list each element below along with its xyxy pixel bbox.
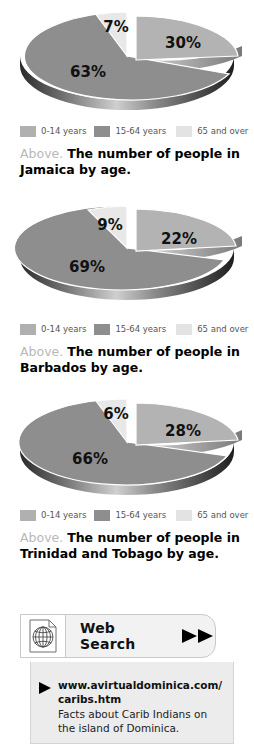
legend-swatch-65-over: [176, 324, 192, 335]
pie-label-65-over: 9%: [97, 216, 122, 234]
pie-label-0-14: 28%: [165, 422, 201, 440]
legend-label-0-14: 0-14 years: [41, 324, 86, 334]
legend-item-15-64: 15-64 years: [94, 324, 166, 335]
caption-barbados: Above. The number of people in Barbados …: [0, 338, 254, 376]
legend-item-65-over: 65 and over: [176, 510, 248, 521]
search-result-item[interactable]: www.avirtualdominica.com/ caribs.htm Fac…: [39, 678, 225, 735]
web-search-title: Web Search: [80, 620, 173, 652]
pie-label-65-over: 6%: [103, 405, 128, 423]
globe-page-icon: [21, 615, 66, 657]
legend-trinidad-tobago: 0-14 years 15-64 years 65 and over: [0, 506, 254, 524]
search-result-url-line2[interactable]: caribs.htm: [58, 692, 225, 706]
web-search-header[interactable]: Web Search: [20, 614, 216, 658]
pie-label-15-64: 63%: [70, 63, 106, 81]
pie-label-0-14: 22%: [161, 230, 197, 248]
bullet-triangle: [39, 682, 52, 694]
pie-chart-barbados: 22% 69% 9%: [0, 202, 254, 320]
legend-label-15-64: 15-64 years: [115, 126, 166, 136]
pie-svg: 28% 66% 6%: [0, 394, 254, 506]
pie-chart-trinidad-tobago: 28% 66% 6%: [0, 394, 254, 506]
pie-svg: 22% 69% 9%: [0, 202, 254, 314]
legend-label-65-over: 65 and over: [197, 126, 248, 136]
pie-label-15-64: 69%: [69, 258, 105, 276]
legend-label-0-14: 0-14 years: [41, 126, 86, 136]
pie-label-0-14: 30%: [165, 34, 201, 52]
legend-swatch-15-64: [94, 510, 110, 521]
search-result-text: www.avirtualdominica.com/ caribs.htm Fac…: [58, 678, 225, 735]
legend-label-65-over: 65 and over: [197, 324, 248, 334]
triangle-right-icon: [39, 680, 52, 698]
legend-label-15-64: 15-64 years: [115, 324, 166, 334]
figure-barbados: 22% 69% 9% 0-14 years 15-64 years 65 and…: [0, 202, 254, 376]
caption-jamaica: Above. The number of people in Jamaica b…: [0, 140, 254, 178]
legend-item-0-14: 0-14 years: [20, 126, 86, 137]
web-search-results: www.avirtualdominica.com/ caribs.htm Fac…: [30, 662, 234, 744]
legend-label-0-14: 0-14 years: [41, 510, 86, 520]
legend-swatch-65-over: [176, 126, 192, 137]
legend-swatch-0-14: [20, 324, 36, 335]
pie-label-15-64: 66%: [72, 450, 108, 468]
legend-item-0-14: 0-14 years: [20, 324, 86, 335]
caption-above-label: Above.: [20, 344, 63, 359]
legend-jamaica: 0-14 years 15-64 years 65 and over: [0, 122, 254, 140]
legend-swatch-65-over: [176, 510, 192, 521]
legend-barbados: 0-14 years 15-64 years 65 and over: [0, 320, 254, 338]
globe-page-glyph: [28, 619, 58, 653]
figure-jamaica: 30% 63% 7% 0-14 years 15-64 years 65 and…: [0, 4, 254, 178]
legend-label-65-over: 65 and over: [197, 510, 248, 520]
caption-above-label: Above.: [20, 146, 63, 161]
pie-label-65-over: 7%: [103, 18, 128, 36]
legend-item-15-64: 15-64 years: [94, 126, 166, 137]
legend-label-15-64: 15-64 years: [115, 510, 166, 520]
double-triangle-right-icon: [181, 628, 215, 644]
legend-swatch-15-64: [94, 126, 110, 137]
caption-above-label: Above.: [20, 530, 63, 545]
caption-trinidad-tobago: Above. The number of people in Trinidad …: [0, 524, 254, 562]
search-result-url-line1[interactable]: www.avirtualdominica.com/: [58, 678, 225, 692]
search-result-description: Facts about Carib Indians on the island …: [58, 707, 225, 735]
legend-item-65-over: 65 and over: [176, 324, 248, 335]
pie-svg: 30% 63% 7%: [0, 4, 254, 122]
legend-swatch-0-14: [20, 126, 36, 137]
legend-swatch-15-64: [94, 324, 110, 335]
legend-item-65-over: 65 and over: [176, 126, 248, 137]
figure-trinidad-tobago: 28% 66% 6% 0-14 years 15-64 years 65 and…: [0, 394, 254, 562]
web-search-panel: Web Search www.avirtualdominica.com/ car…: [20, 614, 234, 744]
pie-chart-jamaica: 30% 63% 7%: [0, 4, 254, 122]
legend-swatch-0-14: [20, 510, 36, 521]
legend-item-0-14: 0-14 years: [20, 510, 86, 521]
legend-item-15-64: 15-64 years: [94, 510, 166, 521]
web-search-go-arrows[interactable]: [181, 628, 215, 644]
